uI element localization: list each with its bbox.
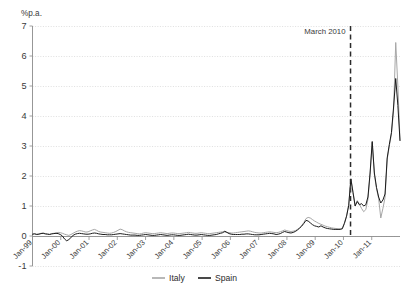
y-axis-tick-label: 4 — [21, 111, 26, 121]
legend-label-italy: Italy — [169, 273, 185, 283]
y-axis-tick-label: 6 — [21, 51, 26, 61]
y-axis-tick-label: 1 — [21, 201, 26, 211]
y-axis-tick-label: 3 — [21, 141, 26, 151]
annotation-label: March 2010 — [304, 27, 346, 36]
y-axis-unit-label: %p.a. — [21, 9, 42, 18]
legend-label-spain: Spain — [215, 273, 237, 283]
y-axis-tick-label: 5 — [21, 81, 26, 91]
y-axis-tick-label: 7 — [21, 21, 26, 31]
chart-container: %p.a. -101234567 Jan-99Jan-00Jan-01Jan-0… — [0, 0, 413, 293]
y-axis-tick-label: 2 — [21, 171, 26, 181]
line-chart: %p.a. -101234567 Jan-99Jan-00Jan-01Jan-0… — [0, 0, 413, 293]
y-axis-tick-label: -1 — [18, 261, 26, 271]
